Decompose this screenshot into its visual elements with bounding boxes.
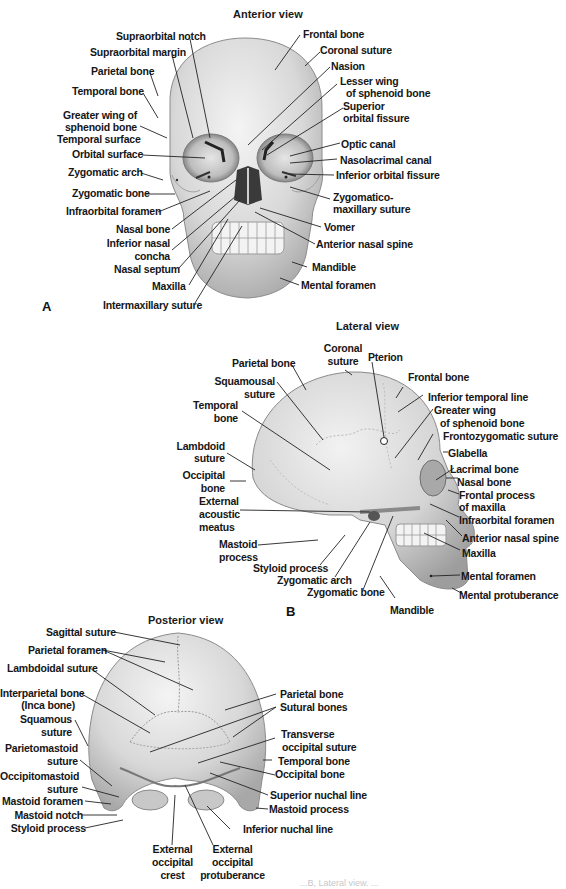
label-squamousal-suture: Squamousal [200,375,275,387]
label-infraorbital-foramen-b: Infraorbital foramen [459,514,554,526]
label-zygomaticomaxillary-suture: Zygomatico- [333,191,393,203]
label-mandible-a: Mandible [312,261,356,273]
label-greater-wing-a: Greater wing of [45,109,137,121]
label-external-acoustic-meatus: External [199,495,239,507]
label-mental-foramen-a: Mental foramen [301,279,376,291]
label-occipitomastoid-suture: Occipitomastoid [0,770,78,782]
label-superior-orbital-fissure-2: orbital fissure [343,112,409,124]
panel-letter-a: A [42,299,51,314]
label-styloid-process-c: Styloid process [0,822,86,834]
label-sagittal-suture: Sagittal suture [46,626,116,638]
label-lesser-wing: Lesser wing [340,75,399,87]
label-optic-canal: Optic canal [341,138,395,150]
label-temporal-bone-b: Temporal [180,399,238,411]
label-temporal-surface: Temporal surface [57,133,141,145]
label-infraorbital-foramen-a: Infraorbital foramen [66,205,161,217]
label-mastoid-notch: Mastoid notch [0,809,83,821]
label-orbital-surface: Orbital surface [72,148,143,160]
label-lacrimal-bone: Lacrimal bone [450,463,519,475]
label-zygomatic-bone-b: Zygomatic bone [307,586,385,598]
label-inferior-nuchal-line: Inferior nuchal line [243,823,333,835]
label-external-occipital-protuberance: External [195,843,270,855]
label-parietal-bone-c: Parietal bone [280,688,343,700]
label-inca-bone: (Inca bone) [0,699,75,711]
label-inferior-temporal-line: Inferior temporal line [428,391,528,403]
label-occipital-bone-b: Occipital [165,469,225,481]
label-external-acoustic-meatus-2: acoustic [199,508,240,520]
skull-figure: Anterior view A Supraorbital notch Supra… [0,0,566,889]
label-nasal-bone-a: Nasal bone [116,223,170,235]
label-external-occipital-protuberance-2: occipital [195,856,270,868]
figure-caption-fragment: ...B, Lateral view. ... [300,878,379,888]
label-nasal-bone-b: Nasal bone [457,476,511,488]
label-mandible-b: Mandible [390,604,434,616]
label-greater-wing-b: Greater wing [434,404,496,416]
label-lambdoidal-suture: Lambdoidal suture [7,662,98,674]
label-nasolacrimal-canal: Nasolacrimal canal [340,154,432,166]
label-zygomaticomaxillary-suture-2: maxillary suture [333,203,410,215]
label-parietomastoid-suture: Parietomastoid [0,742,78,754]
label-external-occipital-crest-2: occipital [145,856,200,868]
label-mastoid-process-c: Mastoid process [269,803,349,815]
label-external-occipital-crest-3: crest [145,869,200,881]
label-zygomatic-arch-b: Zygomatic arch [277,574,352,586]
label-frontal-process-maxilla-2: of maxilla [459,501,505,513]
label-maxilla-b: Maxilla [462,547,496,559]
label-nasion: Nasion [331,60,365,72]
label-anterior-nasal-spine-b: Anterior nasal spine [462,532,559,544]
label-occipital-bone-c: Occipital bone [275,768,345,780]
panel-letter-b: B [286,604,295,619]
label-anterior-nasal-spine-a: Anterior nasal spine [316,238,413,250]
label-coronal-suture-b: Coronal [318,342,368,354]
label-glabella: Glabella [448,447,487,459]
label-mental-foramen-b: Mental foramen [461,570,536,582]
label-squamous-suture: Squamous [0,713,72,725]
label-supraorbital-notch: Supraorbital notch [116,30,206,42]
label-maxilla-a: Maxilla [152,280,186,292]
label-pterion: Pterion [368,351,403,363]
label-squamous-suture-2: suture [0,726,72,738]
label-lambdoid-suture: Lambdoid [165,440,225,452]
posterior-view-title: Posterior view [148,614,223,626]
label-parietal-bone-b: Parietal bone [232,357,295,369]
label-inferior-orbital-fissure: Inferior orbital fissure [336,169,440,181]
label-vomer: Vomer [324,221,355,233]
label-greater-wing-a-2: sphenoid bone [45,121,137,133]
label-zygomatic-arch-a: Zygomatic arch [68,166,143,178]
label-frontal-process-maxilla: Frontal process [459,489,535,501]
label-external-occipital-protuberance-3: protuberance [195,869,270,881]
label-inferior-nasal-concha-2: concha [90,250,170,262]
label-frontozygomatic-suture: Frontozygomatic suture [443,430,558,442]
label-occipital-bone-b-2: bone [165,482,225,494]
label-sutural-bones: Sutural bones [280,701,347,713]
label-mental-protuberance: Mental protuberance [459,589,558,601]
label-mastoid-foramen: Mastoid foramen [0,795,83,807]
label-coronal-suture-b-2: suture [318,355,368,367]
label-occipitomastoid-suture-2: suture [0,783,78,795]
label-transverse-occipital-suture-2: occipital suture [282,741,356,753]
label-transverse-occipital-suture: Transverse [281,728,334,740]
label-parietal-bone-a: Parietal bone [91,65,154,77]
label-interparietal-bone: Interparietal bone [0,687,80,699]
label-styloid-process-b: Styloid process [253,562,328,574]
label-external-occipital-crest: External [145,843,200,855]
label-supraorbital-margin: Supraorbital margin [90,46,186,58]
label-inferior-nasal-concha: Inferior nasal [90,237,170,249]
label-zygomatic-bone-a: Zygomatic bone [72,187,150,199]
label-lambdoid-suture-2: suture [165,452,225,464]
label-parietal-foramen: Parietal foramen [28,644,107,656]
label-superior-nuchal-line: Superior nuchal line [270,789,367,801]
label-nasal-septum: Nasal septum [114,263,180,275]
label-superior-orbital-fissure: Superior [343,100,385,112]
anterior-view-title: Anterior view [233,8,303,20]
label-external-acoustic-meatus-3: meatus [199,521,235,533]
label-parietomastoid-suture-2: suture [0,755,78,767]
label-temporal-bone-a: Temporal bone [72,85,144,97]
lateral-view-title: Lateral view [336,320,399,332]
label-temporal-bone-c: Temporal bone [278,755,350,767]
label-frontal-bone-b: Frontal bone [408,371,469,383]
label-greater-wing-b-2: of sphenoid bone [440,417,524,429]
label-coronal-suture-a: Coronal suture [320,44,392,56]
label-temporal-bone-b-2: bone [180,412,238,424]
label-lesser-wing-2: of sphenoid bone [346,87,430,99]
